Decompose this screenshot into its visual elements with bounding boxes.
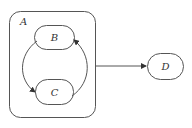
- state-c-label: C: [51, 87, 59, 98]
- transition-b-to-c[interactable]: [22, 41, 37, 92]
- state-b-label: B: [50, 32, 58, 43]
- statechart-diagram: A B C D: [0, 0, 192, 128]
- state-d[interactable]: D: [148, 54, 184, 80]
- transition-c-to-b[interactable]: [72, 40, 87, 96]
- state-b[interactable]: B: [35, 26, 75, 50]
- state-a-label: A: [19, 16, 27, 27]
- state-c[interactable]: C: [36, 80, 74, 105]
- state-d-label: D: [160, 61, 169, 72]
